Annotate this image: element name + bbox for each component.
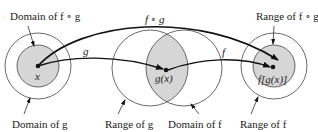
point-fgx xyxy=(271,65,276,70)
label-fog-arrow: f ∘ g xyxy=(145,13,165,25)
point-x xyxy=(36,64,41,69)
pointer-range-fog xyxy=(273,26,274,44)
composition-diagram: x g(x) f[g(x)] f ∘ g g f Domain of f ∘ g… xyxy=(0,0,318,132)
label-gx: g(x) xyxy=(155,72,173,85)
label-domain-fog: Domain of f ∘ g xyxy=(10,10,81,22)
label-x: x xyxy=(34,70,40,82)
pointer-range-f xyxy=(251,97,258,114)
pointer-range-g xyxy=(118,100,125,114)
label-range-f: Range of f xyxy=(240,118,287,130)
label-f-arrow: f xyxy=(222,46,227,58)
label-domain-g: Domain of g xyxy=(12,118,68,130)
pointer-domain-fog xyxy=(28,26,34,46)
label-range-fog: Range of f ∘ g xyxy=(256,10,318,22)
label-fgx: f[g(x)] xyxy=(258,73,287,86)
label-domain-f: Domain of f xyxy=(168,118,222,130)
pointer-domain-f xyxy=(191,104,199,114)
pointer-domain-g xyxy=(24,98,30,114)
label-g-arrow: g xyxy=(83,45,89,57)
label-range-g: Range of g xyxy=(105,118,154,130)
